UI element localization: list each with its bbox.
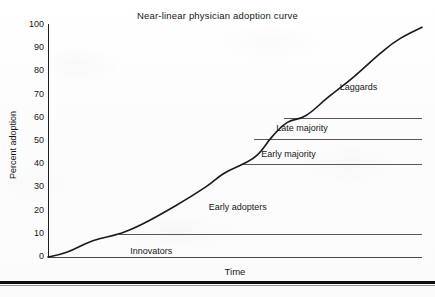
page-bottom-rule-secondary xyxy=(0,285,435,286)
segment-label: Innovators xyxy=(130,246,172,256)
x-axis-title: Time xyxy=(48,266,422,277)
segment-label: Early adopters xyxy=(209,202,267,212)
page-bottom-rule xyxy=(0,281,435,284)
adoption-curve-line xyxy=(0,0,435,297)
segment-label: Early majority xyxy=(261,149,316,159)
curve-path xyxy=(48,27,422,257)
segment-label: Laggards xyxy=(340,82,378,92)
adoption-curve-chart: Near-linear physician adoption curve Per… xyxy=(0,0,435,297)
figure-page: Near-linear physician adoption curve Per… xyxy=(0,0,435,297)
segment-label: Late majority xyxy=(276,123,328,133)
